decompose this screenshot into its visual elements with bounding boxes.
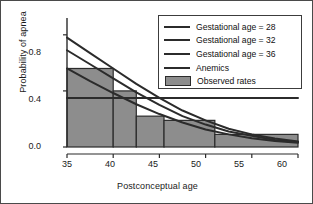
x-tick-label-4: 55 [226,159,252,169]
legend-swatch-icon [165,76,191,86]
x-tick-label-2: 45 [140,159,166,169]
legend-label: Anemics [196,63,229,73]
legend-line-icon [164,53,190,55]
legend-line-icon [164,39,190,41]
legend-label: Gestational age = 28 [196,22,276,32]
figure-frame: Probability of apnea Postconceptual age … [0,0,313,204]
x-axis-title: Postconceptual age [1,181,313,191]
x-tick-label-1: 40 [97,159,123,169]
legend-line-icon [164,67,190,69]
legend-line-icon [164,26,190,28]
legend-label: Gestational age = 32 [196,35,276,45]
y-tick-label-2: 0.0 [15,141,41,151]
legend-item-anemics: Anemics [164,61,296,75]
x-tick-label-0: 35 [54,159,80,169]
legend-label: Observed rates [197,76,256,86]
legend-item-ga36: Gestational age = 36 [164,47,296,61]
x-tick-label-3: 50 [183,159,209,169]
legend-item-observed-rates: Observed rates [164,74,296,88]
legend-item-ga28: Gestational age = 28 [164,20,296,34]
chart-legend: Gestational age = 28 Gestational age = 3… [158,15,302,89]
x-tick-label-5: 60 [269,159,295,169]
y-tick-label-1: 0.4 [15,94,41,104]
y-tick-label-0: 0.8 [15,47,41,57]
legend-label: Gestational age = 36 [196,49,276,59]
legend-item-ga32: Gestational age = 32 [164,34,296,48]
bar [136,116,164,147]
